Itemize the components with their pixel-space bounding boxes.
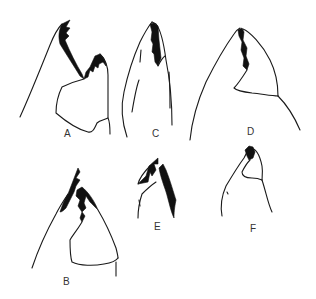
panel-a-drawing: [20, 20, 110, 134]
panel-c-drawing: [122, 22, 172, 137]
panel-d-drawing: [190, 28, 300, 140]
panel-f-drawing: [221, 146, 272, 216]
panel-label-f: F: [250, 224, 256, 234]
figure-canvas: [0, 0, 316, 299]
panel-label-e: E: [154, 222, 161, 232]
panel-label-c: C: [152, 129, 159, 139]
panel-label-a: A: [64, 129, 71, 139]
panel-label-b: B: [63, 277, 70, 287]
panel-b-drawing: [32, 168, 118, 276]
panel-e-drawing: [138, 158, 176, 218]
panel-label-d: D: [247, 127, 254, 137]
